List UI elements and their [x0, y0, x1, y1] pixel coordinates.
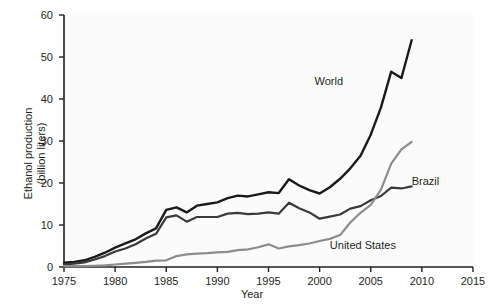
x-tick-label: 2015 — [453, 275, 493, 287]
chart-canvas — [0, 0, 504, 308]
series-label-united-states: United States — [330, 239, 396, 251]
series-label-brazil: Brazil — [412, 175, 440, 187]
ethanol-production-chart: 0102030405060 19751980198519901995200020… — [0, 0, 504, 308]
x-axis-label: Year — [0, 288, 504, 300]
y-axis-label: Ethanol production (billion liters) — [22, 74, 47, 234]
y-tick-label: 0 — [19, 261, 53, 273]
x-tick-label: 1980 — [95, 275, 135, 287]
x-tick-label: 1985 — [146, 275, 186, 287]
x-tick-label: 1990 — [197, 275, 237, 287]
x-tick-label: 1975 — [44, 275, 84, 287]
y-tick-label: 50 — [19, 51, 53, 63]
series-label-world: World — [315, 75, 344, 87]
series-line-world — [64, 40, 412, 263]
x-tick-label: 2000 — [300, 275, 340, 287]
series-line-brazil — [64, 186, 412, 264]
y-tick-label: 60 — [19, 9, 53, 21]
y-axis-label-line2: (billion liters) — [34, 74, 47, 234]
x-tick-label: 2005 — [351, 275, 391, 287]
x-tick-label: 2010 — [402, 275, 442, 287]
x-tick-label: 1995 — [249, 275, 289, 287]
data-series — [64, 40, 412, 266]
y-axis-label-line1: Ethanol production — [22, 74, 35, 234]
